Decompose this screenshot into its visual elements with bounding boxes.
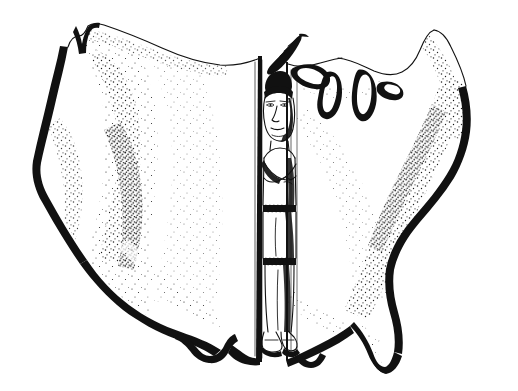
artwork-svg <box>0 0 518 391</box>
illustration-root: Split map of the United States with Nati… <box>0 0 518 391</box>
